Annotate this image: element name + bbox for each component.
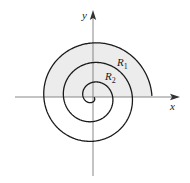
y-axis-label: y bbox=[81, 9, 87, 21]
spiral-diagram: y x R1 R2 bbox=[0, 0, 190, 183]
x-axis-label: x bbox=[169, 100, 175, 112]
shaded-upper-region bbox=[44, 43, 152, 97]
